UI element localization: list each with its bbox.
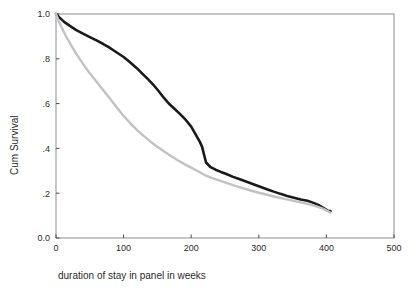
x-tick-label: 0 [53,243,58,253]
y-tick-label: .8 [42,54,50,64]
plot-frame [56,14,394,238]
axis-labels: 01002003004005000.0.2.4.6.81.0 [37,9,401,253]
chart-container: 01002003004005000.0.2.4.6.81.0 Cum Survi… [0,0,414,297]
curve-gray-curve [56,14,330,213]
y-tick-label: .4 [42,144,50,154]
x-tick-label: 500 [386,243,401,253]
survival-plot: 01002003004005000.0.2.4.6.81.0 Cum Survi… [0,0,414,297]
y-axis-title: Cum Survival [9,116,20,175]
x-tick-label: 200 [184,243,199,253]
y-tick-label: 0.0 [37,233,50,243]
survival-curves [56,14,330,213]
x-tick-label: 300 [251,243,266,253]
y-tick-label: 1.0 [37,9,50,19]
axis-ticks [56,14,394,238]
y-tick-label: .6 [42,99,50,109]
y-tick-label: .2 [42,189,50,199]
plot-border [56,14,394,238]
x-tick-label: 100 [116,243,131,253]
curve-black-curve [56,14,330,211]
x-tick-label: 400 [319,243,334,253]
x-axis-title: duration of stay in panel in weeks [58,270,206,281]
